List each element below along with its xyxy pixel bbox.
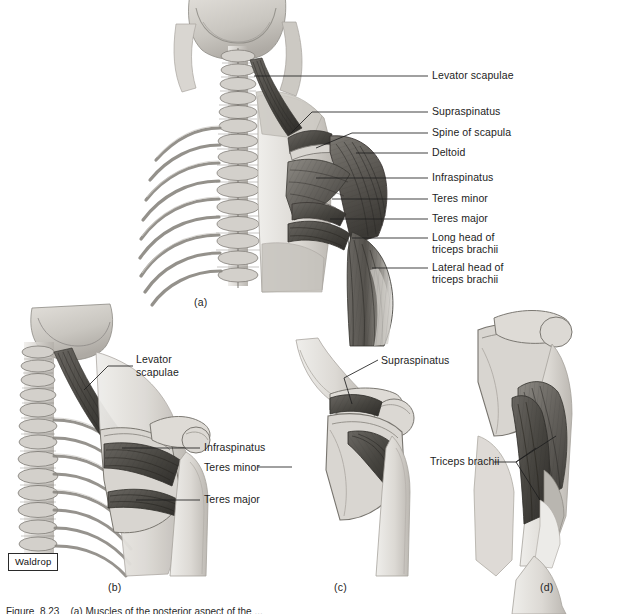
panel-c-artwork bbox=[296, 338, 414, 576]
panel-letter-c: (c) bbox=[334, 581, 347, 593]
label-a-infraspinatus: Infraspinatus bbox=[432, 171, 493, 183]
label-a-supraspinatus: Supraspinatus bbox=[432, 105, 500, 117]
panel-b-artwork bbox=[18, 304, 292, 576]
panel-b-spine bbox=[18, 342, 58, 566]
illustrator-signature: Waldrop bbox=[8, 553, 58, 571]
label-a-lateral-head-triceps-line2: triceps brachii bbox=[432, 273, 498, 285]
label-b-levator-scapulae-line2: scapulae bbox=[136, 366, 179, 378]
panel-a-ribs bbox=[140, 128, 221, 305]
figure-artwork bbox=[0, 0, 632, 614]
label-a-long-head-triceps-line2: triceps brachii bbox=[432, 243, 498, 255]
label-b-levator-scapulae-line1: Levator bbox=[136, 353, 172, 365]
label-b-teres-minor: Teres minor bbox=[204, 461, 260, 473]
label-a-teres-minor: Teres minor bbox=[432, 192, 488, 204]
label-c-supraspinatus: Supraspinatus bbox=[381, 354, 449, 366]
panel-letter-b: (b) bbox=[108, 581, 121, 593]
panel-a-artwork bbox=[140, 0, 428, 346]
panel-letter-a: (a) bbox=[194, 296, 207, 308]
label-a-long-head-triceps-line1: Long head of bbox=[432, 231, 495, 243]
label-b-teres-major: Teres major bbox=[204, 493, 260, 505]
figure-caption: Figure 8.23 (a) Muscles of the posterior… bbox=[6, 606, 626, 614]
label-b-infraspinatus: Infraspinatus bbox=[204, 441, 265, 453]
label-a-teres-major: Teres major bbox=[432, 212, 488, 224]
label-a-spine-of-scapula: Spine of scapula bbox=[432, 126, 511, 138]
panel-a-spine bbox=[216, 46, 260, 288]
label-a-levator-scapulae: Levator scapulae bbox=[432, 69, 514, 81]
label-d-triceps-brachii: Triceps brachii bbox=[430, 455, 499, 467]
label-a-lateral-head-triceps-line1: Lateral head of bbox=[432, 261, 504, 273]
panel-a-shoulder bbox=[250, 58, 393, 346]
anatomy-figure: Levator scapulae Supraspinatus Spine of … bbox=[0, 0, 632, 614]
label-a-deltoid: Deltoid bbox=[432, 146, 465, 158]
panel-letter-d: (d) bbox=[540, 581, 553, 593]
